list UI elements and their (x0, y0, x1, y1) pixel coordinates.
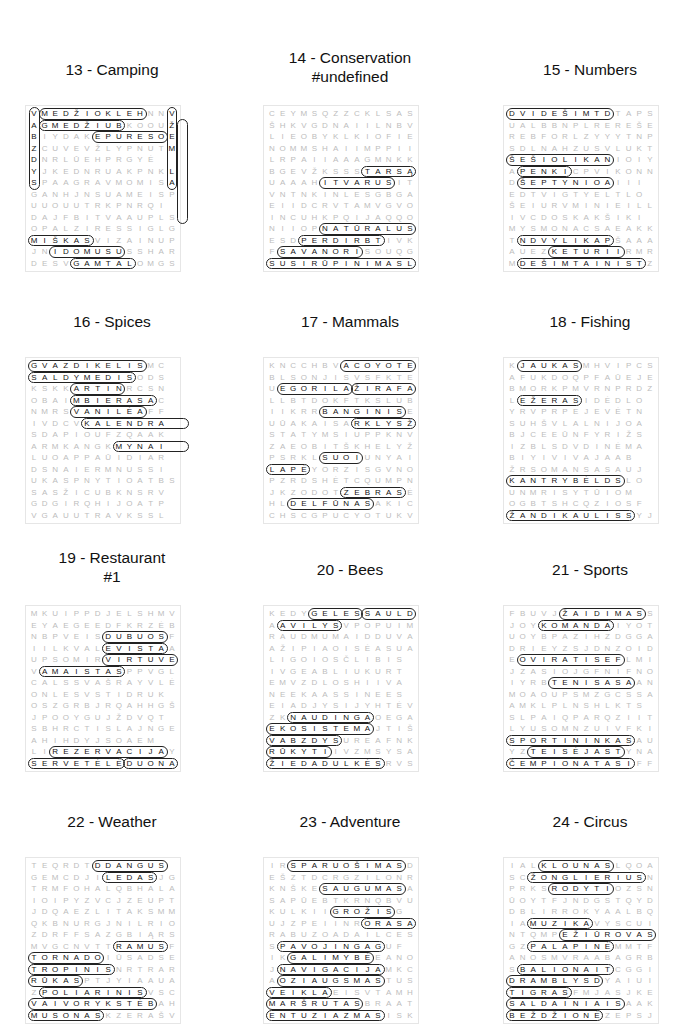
grid-letter: Y (634, 895, 644, 906)
grid-letter: A (560, 464, 570, 475)
grid-letter: M (539, 223, 549, 234)
grid-letter: Z (539, 246, 549, 257)
grid-letter: A (93, 177, 103, 188)
grid-letter: I (320, 418, 330, 429)
grid-letter: T (645, 620, 655, 631)
grid-letter: Y (309, 464, 319, 475)
letter-grid: KJAUKASMHVIPCSAFUKDOQPFAŪEJEBMORKPMVRNPR… (503, 357, 659, 524)
grid-letter: E (299, 666, 309, 677)
grid-letter: U (61, 510, 71, 521)
grid-letter: F (146, 406, 156, 417)
grid-letter: Y (602, 975, 612, 986)
grid-letter: M (29, 608, 39, 619)
grid-letter: C (528, 212, 538, 223)
grid-letter: D (146, 952, 156, 963)
puzzle-title: 16 - Spices (12, 312, 212, 331)
grid-letter: K (40, 918, 50, 929)
grid-letter: O (278, 143, 288, 154)
grid-letter: I (645, 918, 655, 929)
grid-letter: A (167, 643, 177, 654)
grid-letter: G (288, 666, 298, 677)
grid-letter: U (549, 689, 559, 700)
grid-letter: P (40, 712, 50, 723)
grid-letter: P (549, 929, 559, 940)
grid-letter: C (267, 510, 277, 521)
grid-letter: G (114, 929, 124, 940)
found-word-outline (102, 654, 178, 666)
grid-letter: E (613, 223, 623, 234)
grid-letter: I (114, 452, 124, 463)
grid-letter: K (103, 200, 113, 211)
found-word-outline (39, 666, 126, 678)
grid-letter: U (320, 631, 330, 642)
grid-letter: U (103, 166, 113, 177)
grid-letter: A (103, 510, 113, 521)
grid-letter: P (581, 166, 591, 177)
grid-letter: A (50, 475, 60, 486)
grid-letter: A (146, 452, 156, 463)
grid-letter: G (624, 952, 634, 963)
grid-letter: A (135, 475, 145, 486)
puzzle-title: 17 - Mammals (250, 312, 450, 331)
grid-letter: R (114, 154, 124, 165)
found-word-outline (308, 608, 363, 620)
found-word-outline (39, 120, 126, 132)
grid-letter: N (146, 108, 156, 119)
grid-letter: P (71, 452, 81, 463)
grid-letter: J (352, 700, 362, 711)
puzzle-title: 21 - Sports (490, 560, 690, 579)
grid-letter: A (624, 223, 634, 234)
grid-letter: V (267, 189, 277, 200)
found-word-outline (287, 712, 374, 724)
grid-letter: U (93, 429, 103, 440)
grid-letter: K (384, 429, 394, 440)
grid-letter: J (634, 464, 644, 475)
grid-letter: V (602, 360, 612, 371)
grid-letter: U (384, 246, 394, 257)
grid-letter: M (539, 929, 549, 940)
grid-letter: B (320, 666, 330, 677)
grid-letter: L (624, 189, 634, 200)
grid-letter: R (135, 620, 145, 631)
grid-letter: Q (384, 212, 394, 223)
grid-letter: U (634, 975, 644, 986)
grid-letter: R (40, 441, 50, 452)
grid-letter: P (560, 689, 570, 700)
grid-letter: I (645, 975, 655, 986)
grid-letter: C (384, 929, 394, 940)
grid-letter: N (645, 677, 655, 688)
grid-letter: A (518, 120, 528, 131)
grid-letter: Q (362, 475, 372, 486)
grid-letter: J (29, 712, 39, 723)
grid-letter: V (29, 510, 39, 521)
grid-letter: F (167, 631, 177, 642)
grid-letter: B (539, 631, 549, 642)
grid-letter: K (405, 154, 415, 165)
grid-letter: L (156, 677, 166, 688)
grid-letter: U (352, 429, 362, 440)
grid-letter: C (71, 723, 81, 734)
puzzle-title: 13 - Camping (12, 60, 212, 79)
grid-letter: R (539, 487, 549, 498)
grid-letter: I (560, 452, 570, 463)
grid-letter: V (560, 200, 570, 211)
grid-letter: V (82, 689, 92, 700)
grid-letter: S (267, 429, 277, 440)
grid-letter (645, 487, 655, 498)
grid-letter: I (362, 131, 372, 142)
grid-letter: L (156, 212, 166, 223)
grid-letter: R (299, 406, 309, 417)
grid-letter: N (278, 212, 288, 223)
grid-letter: D (71, 735, 81, 746)
grid-letter: U (634, 918, 644, 929)
grid-letter: I (394, 177, 404, 188)
grid-letter: B (40, 631, 50, 642)
grid-letter: G (394, 906, 404, 917)
grid-letter: S (373, 746, 383, 757)
grid-letter: M (278, 677, 288, 688)
grid-letter (645, 212, 655, 223)
grid-letter: F (645, 758, 655, 769)
grid-letter: F (518, 372, 528, 383)
grid-letter: U (299, 929, 309, 940)
grid-letter: O (29, 700, 39, 711)
